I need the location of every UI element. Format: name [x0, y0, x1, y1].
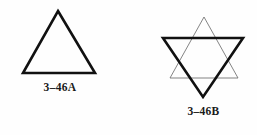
figure-sheet: 3–46A 3–46B [0, 0, 257, 135]
figure-b: 3–46B [150, 0, 257, 130]
figure-b-caption: 3–46B [150, 106, 257, 118]
figure-b-drawing [150, 0, 257, 105]
figure-a: 3–46A [0, 0, 120, 100]
figure-a-caption: 3–46A [0, 82, 120, 94]
bold-downward-triangle [163, 38, 243, 97]
thin-upward-triangle [170, 17, 238, 78]
bold-upward-triangle [23, 11, 95, 73]
